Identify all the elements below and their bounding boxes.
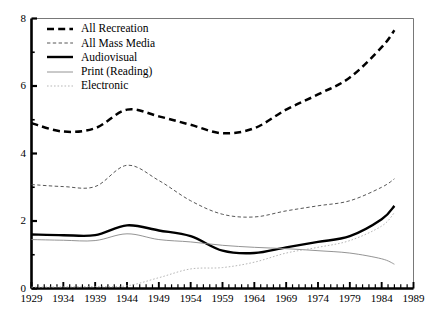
legend-swatch-icon bbox=[47, 81, 73, 91]
legend-item: Audiovisual bbox=[47, 50, 187, 64]
legend-label: Audiovisual bbox=[81, 52, 137, 64]
legend-item: All Mass Media bbox=[47, 36, 187, 50]
legend-swatch-icon bbox=[47, 24, 73, 34]
y-axis-tick-label: 6 bbox=[6, 79, 26, 91]
legend-label: All Mass Media bbox=[81, 38, 155, 50]
series-line-all-mass-media bbox=[32, 165, 395, 217]
legend-swatch-icon bbox=[47, 52, 73, 62]
y-axis-tick-label: 2 bbox=[6, 214, 26, 226]
legend-item: Electronic bbox=[47, 79, 187, 93]
x-axis-tick-label: 1989 bbox=[394, 292, 428, 304]
legend-swatch-icon bbox=[47, 38, 73, 48]
legend-item: All Recreation bbox=[47, 22, 187, 36]
y-axis-tick-label: 8 bbox=[6, 12, 26, 24]
legend-swatch-icon bbox=[47, 67, 73, 77]
legend-item: Print (Reading) bbox=[47, 65, 187, 79]
legend-label: Electronic bbox=[81, 80, 128, 92]
series-line-audiovisual bbox=[32, 206, 395, 254]
legend-label: Print (Reading) bbox=[81, 66, 152, 78]
legend-label: All Recreation bbox=[81, 23, 148, 35]
series-line-electronic bbox=[32, 213, 395, 288]
y-axis-tick-label: 4 bbox=[6, 147, 26, 159]
line-chart: 86420 1929193419391944194919541959196419… bbox=[0, 0, 428, 313]
chart-legend: All RecreationAll Mass MediaAudiovisualP… bbox=[47, 22, 187, 93]
